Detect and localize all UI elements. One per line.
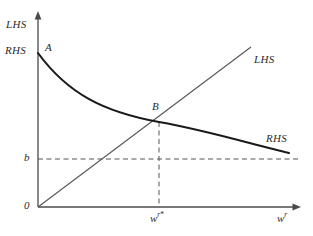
series-lhs-label: LHS xyxy=(254,54,274,65)
y-axis-rhs-intercept-label: RHS xyxy=(5,45,26,56)
y-axis-tick-b-label: b xyxy=(24,152,30,163)
w-superscript: r xyxy=(284,210,287,219)
series-rhs-curve xyxy=(38,53,289,153)
origin-label: 0 xyxy=(24,200,30,211)
point-a-label: A xyxy=(45,42,52,53)
wstar-asterisk: * xyxy=(160,210,164,219)
x-axis-tick-wstar-label: wr* xyxy=(150,211,164,224)
series-rhs-label: RHS xyxy=(266,133,287,144)
equilibrium-diagram-figure: LHS RHS A B LHS RHS b 0 wr* wr xyxy=(0,0,313,236)
y-axis xyxy=(35,11,42,207)
x-axis-variable-label: wr xyxy=(277,211,287,224)
y-axis-lhs-label: LHS xyxy=(6,19,26,30)
point-b-label: B xyxy=(152,101,159,112)
series-lhs-line xyxy=(38,47,251,207)
plot-canvas xyxy=(0,0,313,236)
x-axis xyxy=(38,204,301,211)
